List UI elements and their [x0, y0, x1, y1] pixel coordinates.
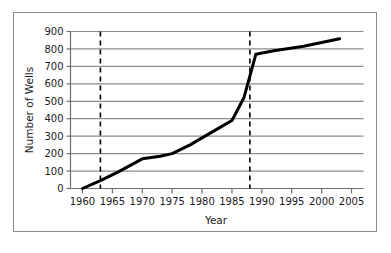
y-axis [67, 32, 71, 189]
annotation-lines [100, 32, 249, 189]
chart-figure: 0100200300400500600700800900 19601965197… [0, 0, 391, 253]
y-tick-labels: 0100200300400500600700800900 [44, 26, 63, 194]
y-tick-label-400: 400 [44, 113, 63, 124]
x-tick-label-1995: 1995 [279, 196, 304, 207]
data-series [82, 39, 339, 189]
y-tick-label-800: 800 [44, 44, 63, 55]
y-tick-label-200: 200 [44, 148, 63, 159]
grid-lines [71, 32, 364, 189]
y-tick-label-700: 700 [44, 61, 63, 72]
x-tick-labels: 1960196519701975198019851990199520002005 [70, 196, 365, 207]
x-tick-label-1980: 1980 [189, 196, 214, 207]
y-tick-label-600: 600 [44, 78, 63, 89]
y-axis-title: Number of Wells [23, 67, 35, 154]
series-line-0 [82, 39, 339, 189]
x-tick-label-2000: 2000 [309, 196, 334, 207]
y-tick-label-0: 0 [57, 183, 63, 194]
x-axis-title: Year [204, 214, 228, 226]
x-tick-label-1985: 1985 [219, 196, 244, 207]
y-tick-label-100: 100 [44, 166, 63, 177]
line-chart: 0100200300400500600700800900 19601965197… [0, 0, 391, 253]
x-axis [71, 189, 364, 194]
x-tick-label-1990: 1990 [249, 196, 274, 207]
x-tick-label-1970: 1970 [130, 196, 155, 207]
y-tick-label-900: 900 [44, 26, 63, 37]
x-tick-label-1965: 1965 [100, 196, 125, 207]
y-tick-label-500: 500 [44, 96, 63, 107]
x-tick-label-1960: 1960 [70, 196, 95, 207]
x-tick-label-1975: 1975 [159, 196, 184, 207]
x-tick-label-2005: 2005 [339, 196, 364, 207]
y-tick-label-300: 300 [44, 131, 63, 142]
